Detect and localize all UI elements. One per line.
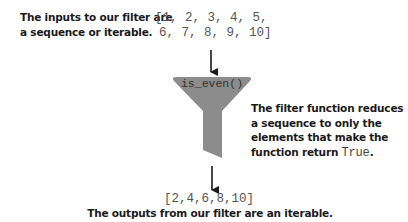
filter-function-label: is_even() (172, 77, 252, 90)
output-sequence: [2,4,6,8,10] (0, 192, 408, 206)
input-sequence: [1, 2, 3, 4, 5, 6, 7, 8, 9, 10] (155, 11, 272, 41)
filter-description-line: The filter function reduces (251, 101, 403, 116)
filter-description-line: function return True. (251, 145, 403, 161)
true-keyword: True (342, 146, 370, 160)
input-sequence-line: [1, 2, 3, 4, 5, (155, 11, 272, 26)
filter-description-line: elements that make the (251, 130, 403, 145)
filter-description: The filter function reduces a sequence t… (251, 101, 403, 160)
input-label-line: The inputs to our filter are (20, 10, 172, 25)
filter-description-period: . (370, 146, 374, 158)
filter-description-text: function return (251, 146, 342, 158)
filter-description-line: a sequence to only the (251, 116, 403, 131)
input-label: The inputs to our filter are a sequence … (20, 10, 172, 40)
output-label: The outputs from our filter are an itera… (0, 207, 408, 219)
input-label-line: a sequence or iterable. (20, 25, 172, 40)
input-sequence-line: 6, 7, 8, 9, 10] (155, 26, 272, 41)
